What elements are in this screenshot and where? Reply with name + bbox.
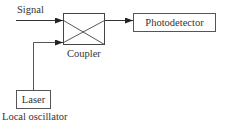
local-oscillator-caption: Local oscillator <box>2 112 68 122</box>
laser-label: Laser <box>22 94 45 105</box>
photodetector-label: Photodetector <box>145 17 203 28</box>
laser-box: Laser <box>16 90 51 109</box>
signal-label: Signal <box>17 5 44 16</box>
coupler-label: Coupler <box>67 49 101 60</box>
coupler-box <box>64 14 105 45</box>
laser-line <box>34 43 64 91</box>
photodetector-box: Photodetector <box>133 13 216 32</box>
